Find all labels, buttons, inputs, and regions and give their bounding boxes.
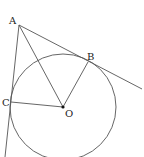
- label-a: A: [8, 15, 17, 26]
- label-o: O: [65, 108, 73, 119]
- tangent-line-ab: [19, 25, 142, 89]
- label-c: C: [2, 97, 10, 108]
- segment-ob: [63, 62, 88, 107]
- label-b: B: [87, 51, 94, 62]
- geometry-diagram: A B C O: [0, 0, 144, 157]
- segment-oc: [11, 102, 63, 107]
- tangent-line-ac: [5, 25, 19, 157]
- segment-ao: [19, 25, 63, 107]
